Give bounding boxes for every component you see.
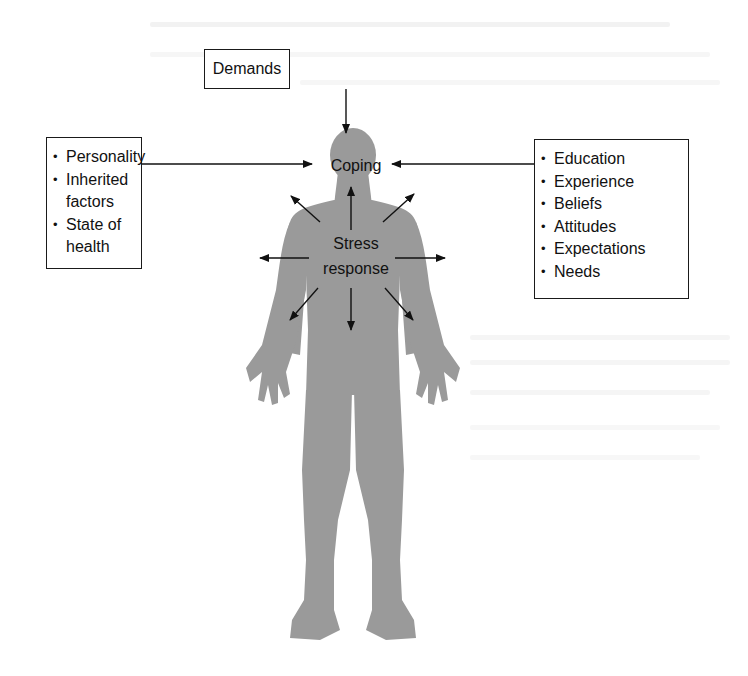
list-item: State of health: [53, 214, 144, 259]
learned-factors-list: Education Experience Beliefs Attitudes E…: [541, 148, 688, 283]
list-item: Needs: [541, 261, 688, 284]
list-item: Beliefs: [541, 193, 688, 216]
stress-response-line-1: Stress: [300, 231, 412, 256]
list-item: Experience: [541, 171, 688, 194]
personal-factors-list: Personality Inherited factors State of h…: [53, 146, 141, 259]
human-silhouette-icon: [246, 128, 460, 640]
list-item: Inherited factors: [53, 169, 144, 214]
stress-response-line-2: response: [300, 256, 412, 281]
list-item: Attitudes: [541, 216, 688, 239]
diagram-graphics: [0, 0, 748, 676]
demands-label: Demands: [213, 60, 281, 78]
learned-factors-box: Education Experience Beliefs Attitudes E…: [534, 139, 689, 299]
list-item: Personality: [53, 146, 144, 169]
stress-coping-diagram: Demands Personality Inherited factors St…: [0, 0, 748, 676]
stress-response-label: Stress response: [300, 231, 412, 281]
personal-factors-box: Personality Inherited factors State of h…: [46, 137, 142, 269]
list-item: Education: [541, 148, 688, 171]
coping-label: Coping: [316, 155, 396, 177]
demands-box: Demands: [204, 49, 290, 89]
list-item: Expectations: [541, 238, 688, 261]
